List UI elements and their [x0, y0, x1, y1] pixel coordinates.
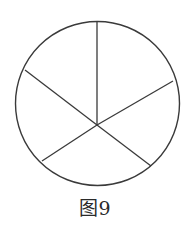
spoke-lower-right	[97, 125, 151, 166]
spokes-group	[25, 21, 173, 166]
spoke-lower-left	[42, 125, 97, 161]
spoke-upper-left	[25, 70, 97, 125]
figure-caption: 图9	[0, 196, 188, 220]
spoke-upper-right	[97, 81, 173, 125]
divided-circle-diagram	[0, 0, 188, 226]
